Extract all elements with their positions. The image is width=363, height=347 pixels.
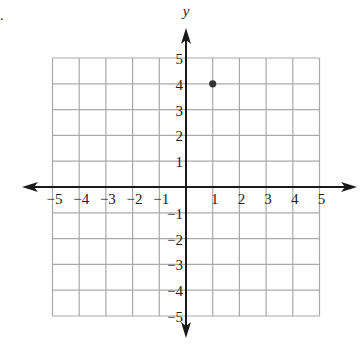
y-tick-label: 2 [176,128,184,144]
x-tick-label: −4 [73,191,89,207]
y-tick-label: −2 [167,232,183,248]
y-axis-label: y [181,3,190,19]
y-tick-label: 3 [176,103,184,119]
x-tick-label: −5 [47,191,63,207]
x-tick-label: −3 [100,191,116,207]
axes [22,28,357,338]
y-tick-label: 4 [176,77,184,93]
x-tick-label: 3 [264,191,272,207]
x-tick-label: 4 [291,191,299,207]
x-tick-label: −2 [127,191,143,207]
x-tick-label: 2 [238,191,246,207]
x-tick-label: −1 [153,191,169,207]
y-tick-label: −4 [167,283,183,299]
x-tick-label: 5 [318,191,326,207]
y-tick-label: −5 [167,309,183,325]
y-tick-label: 1 [176,154,184,170]
x-tick-label: 1 [211,191,219,207]
data-point [209,80,216,87]
y-tick-label: 5 [176,51,184,67]
y-tick-label: −1 [167,206,183,222]
data-points [209,80,216,87]
coordinate-plane: −5−4−3−2−11234554321−1−2−3−4−5 y x [0,0,363,347]
y-tick-label: −3 [167,257,183,273]
